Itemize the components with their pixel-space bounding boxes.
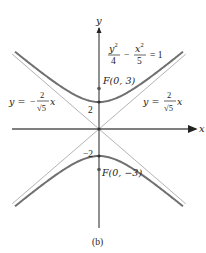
origin-point bbox=[97, 127, 100, 130]
asymptote-positive-numerator: 2 bbox=[167, 90, 171, 100]
focus-upper-label: F(0, 3) bbox=[102, 75, 135, 86]
vertex-upper-point bbox=[97, 100, 100, 103]
asymptote-negative-numerator: 2 bbox=[40, 90, 44, 100]
asymptote-negative-label: y = − 2 √5 x bbox=[8, 90, 56, 113]
y-axis-label: y bbox=[95, 15, 102, 26]
focus-lower-label: F(0, −3) bbox=[101, 167, 142, 178]
equation-equals-one: = 1 bbox=[150, 50, 163, 60]
focus-lower-point bbox=[97, 168, 101, 172]
asymptote-negative-denominator: √5 bbox=[37, 103, 46, 113]
vertex-upper-label: 2 bbox=[88, 105, 93, 115]
equation-y-denominator: 4 bbox=[111, 56, 116, 66]
vertex-lower-point bbox=[97, 154, 100, 157]
hyperbola-figure: y x y 2 4 − x 2 5 = 1 F(0, 3) F(0, −3) 2… bbox=[0, 0, 206, 253]
asymptote-positive-lhs: y = bbox=[142, 96, 159, 107]
equation-minus: − bbox=[124, 50, 129, 60]
asymptote-positive-var: x bbox=[177, 96, 183, 107]
hyperbola-equation: y 2 4 − x 2 5 = 1 bbox=[108, 41, 163, 66]
equation-x-exponent: 2 bbox=[141, 41, 144, 48]
asymptote-positive-label: y = 2 √5 x bbox=[142, 90, 183, 113]
vertex-lower-label: −2 bbox=[83, 149, 93, 159]
asymptote-positive-denominator: √5 bbox=[164, 103, 173, 113]
equation-x-denominator: 5 bbox=[137, 56, 142, 66]
asymptote-negative-sign: − bbox=[30, 97, 35, 107]
asymptote-negative-lhs: y = bbox=[8, 96, 25, 107]
figure-caption: (b) bbox=[92, 237, 103, 248]
asymptote-negative-var: x bbox=[50, 96, 56, 107]
x-axis-label: x bbox=[199, 123, 205, 134]
focus-upper-point bbox=[97, 87, 101, 91]
equation-y-exponent: 2 bbox=[115, 41, 118, 48]
